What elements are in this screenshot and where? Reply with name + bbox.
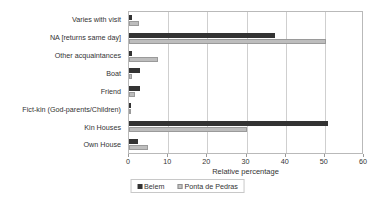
bar-ponta-de-pedras xyxy=(129,145,148,150)
x-axis-title: Relative percentage xyxy=(128,167,363,176)
legend-swatch-icon xyxy=(177,184,182,189)
bar-ponta-de-pedras xyxy=(129,127,247,132)
bar-belem xyxy=(129,103,131,108)
plot-area xyxy=(128,11,363,154)
chart-legend: BelemPonta de Pedras xyxy=(130,179,245,193)
chart-figure: Varies with visitNA [returns same day]Ot… xyxy=(0,0,375,198)
bar-groups xyxy=(129,12,362,153)
bar-belem xyxy=(129,33,275,38)
bar-group xyxy=(129,65,362,83)
y-axis-label: Kin Houses xyxy=(0,118,125,136)
bar-ponta-de-pedras xyxy=(129,57,158,62)
legend-swatch-icon xyxy=(137,184,142,189)
bar-group xyxy=(129,47,362,65)
bar-group xyxy=(129,100,362,118)
bar-belem xyxy=(129,51,132,56)
bar-ponta-de-pedras xyxy=(129,39,326,44)
legend-item[interactable]: Ponta de Pedras xyxy=(177,182,238,191)
bar-group xyxy=(129,118,362,136)
x-tick-label: 20 xyxy=(202,157,210,166)
bar-ponta-de-pedras xyxy=(129,109,131,114)
bar-belem xyxy=(129,15,132,20)
x-tick-label: 50 xyxy=(320,157,328,166)
bar-belem xyxy=(129,68,140,73)
y-axis-label: Own House xyxy=(0,136,125,154)
y-axis-label: NA [returns same day] xyxy=(0,29,125,47)
x-tick-label: 40 xyxy=(281,157,289,166)
legend-label: Ponta de Pedras xyxy=(184,182,238,191)
x-tick-label: 0 xyxy=(126,157,130,166)
x-tick-label: 60 xyxy=(359,157,367,166)
y-axis-category-labels: Varies with visitNA [returns same day]Ot… xyxy=(0,11,125,154)
bar-belem xyxy=(129,121,328,126)
bar-group xyxy=(129,135,362,153)
x-axis-tick-labels: 0102030405060 xyxy=(128,157,363,167)
y-axis-label: Friend xyxy=(0,83,125,101)
legend-item[interactable]: Belem xyxy=(137,182,164,191)
x-tick-label: 30 xyxy=(242,157,250,166)
y-axis-label: Fict-kin (God-parents/Children) xyxy=(0,100,125,118)
bar-group xyxy=(129,83,362,101)
y-axis-label: Other acquaintances xyxy=(0,47,125,65)
bar-ponta-de-pedras xyxy=(129,74,132,79)
x-tick-label: 10 xyxy=(163,157,171,166)
bar-group xyxy=(129,12,362,30)
bar-belem xyxy=(129,86,140,91)
bar-ponta-de-pedras xyxy=(129,92,135,97)
bar-belem xyxy=(129,139,138,144)
bar-group xyxy=(129,30,362,48)
chart-title xyxy=(128,0,364,1)
y-axis-label: Boat xyxy=(0,65,125,83)
bar-ponta-de-pedras xyxy=(129,21,139,26)
legend-label: Belem xyxy=(144,182,164,191)
y-axis-label: Varies with visit xyxy=(0,11,125,29)
